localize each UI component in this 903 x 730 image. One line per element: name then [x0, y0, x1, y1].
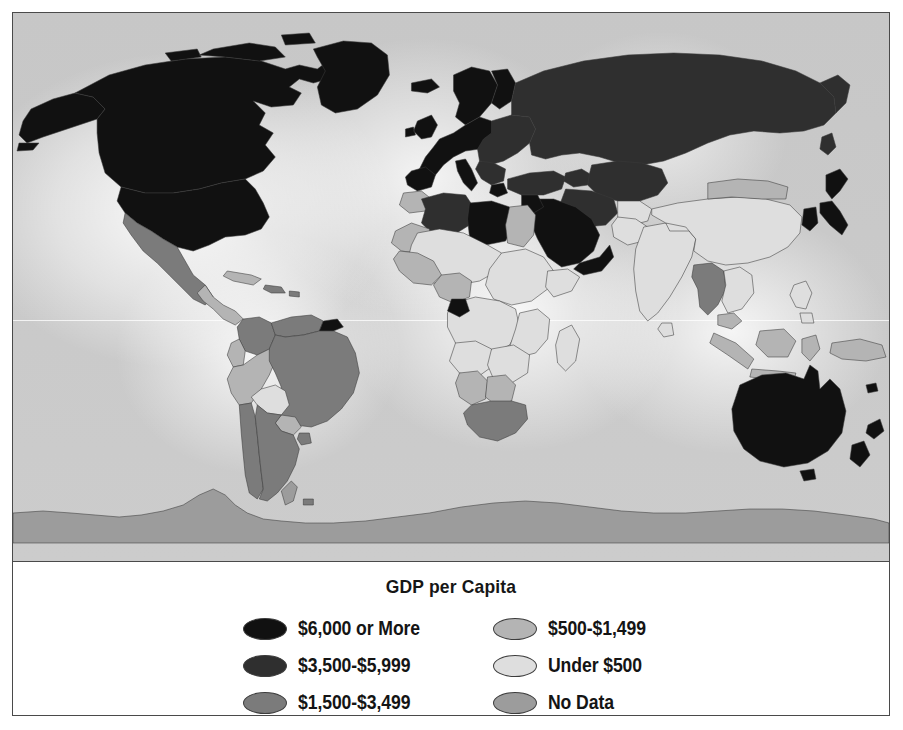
- legend-item-500-1499[interactable]: $500-$1,499: [493, 612, 659, 645]
- legend-item-label: $6,000 or More: [298, 617, 420, 640]
- legend-item-label: Under $500: [548, 654, 642, 677]
- region-papua-new-guinea[interactable]: [830, 339, 886, 361]
- region-antarctica[interactable]: [13, 489, 889, 543]
- region-egypt[interactable]: [506, 205, 536, 247]
- world-map-svg[interactable]: [13, 13, 889, 561]
- region-horn-of-africa[interactable]: [546, 269, 580, 297]
- region-russia[interactable]: [512, 53, 836, 165]
- region-malaysia[interactable]: [718, 313, 742, 329]
- region-nigeria[interactable]: [433, 273, 471, 303]
- region-united-kingdom[interactable]: [405, 115, 437, 139]
- region-mongolia[interactable]: [708, 179, 788, 199]
- legend-item-1500-3499[interactable]: $1,500-$3,499: [243, 686, 437, 719]
- legend-swatch-icon: [243, 692, 287, 714]
- region-iceland[interactable]: [411, 79, 439, 93]
- region-indochina[interactable]: [722, 267, 754, 313]
- region-italy[interactable]: [456, 159, 478, 191]
- region-australia[interactable]: [732, 365, 846, 467]
- region-korea[interactable]: [802, 207, 818, 231]
- region-sumatra[interactable]: [710, 333, 754, 369]
- legend-swatch-icon: [493, 655, 537, 677]
- gdp-per-capita-figure: GDP per Capita $6,000 or More $3,500-$5,…: [0, 0, 903, 730]
- region-caucasus[interactable]: [564, 169, 592, 187]
- region-greece[interactable]: [490, 183, 508, 197]
- legend-item-label: $3,500-$5,999: [298, 654, 410, 677]
- region-myanmar-thailand[interactable]: [692, 263, 726, 315]
- region-aleutians[interactable]: [17, 143, 39, 151]
- legend-item-label: $500-$1,499: [548, 617, 646, 640]
- legend-swatch-icon: [493, 692, 537, 714]
- region-central-america[interactable]: [197, 285, 243, 325]
- legend-item-6000-plus[interactable]: $6,000 or More: [243, 612, 437, 645]
- legend-title: GDP per Capita: [48, 576, 854, 598]
- legend-column-left: $6,000 or More $3,500-$5,999 $1,500-$3,4…: [243, 612, 437, 719]
- region-japan[interactable]: [820, 169, 848, 235]
- legend-swatch-icon: [243, 655, 287, 677]
- legend-swatch-icon: [493, 618, 537, 640]
- region-greenland[interactable]: [313, 41, 389, 113]
- region-namibia[interactable]: [456, 371, 488, 405]
- legend-columns: $6,000 or More $3,500-$5,999 $1,500-$3,4…: [13, 612, 889, 719]
- region-turkey[interactable]: [508, 171, 566, 195]
- region-sri-lanka[interactable]: [658, 323, 674, 337]
- region-new-zealand[interactable]: [850, 419, 884, 467]
- region-cuba[interactable]: [223, 271, 261, 285]
- legend-item-no-data[interactable]: No Data: [493, 686, 659, 719]
- region-falklands[interactable]: [303, 499, 313, 505]
- figure-frame: GDP per Capita $6,000 or More $3,500-$5,…: [12, 12, 890, 716]
- region-canada[interactable]: [75, 57, 343, 193]
- region-philippines[interactable]: [790, 281, 814, 323]
- legend-swatch-icon: [243, 618, 287, 640]
- region-alaska[interactable]: [19, 93, 105, 143]
- region-borneo[interactable]: [756, 329, 796, 357]
- legend-item-3500-5999[interactable]: $3,500-$5,999: [243, 649, 437, 682]
- legend-column-right: $500-$1,499 Under $500 No Data: [493, 612, 659, 719]
- region-hispaniola[interactable]: [263, 285, 285, 293]
- legend-item-under-500[interactable]: Under $500: [493, 649, 659, 682]
- region-madagascar[interactable]: [556, 325, 580, 371]
- region-sulawesi[interactable]: [802, 335, 820, 361]
- region-balkans[interactable]: [476, 161, 506, 185]
- region-south-africa[interactable]: [464, 401, 528, 441]
- legend-panel: GDP per Capita $6,000 or More $3,500-$5,…: [13, 561, 889, 715]
- region-tasmania[interactable]: [800, 469, 816, 481]
- region-sakhalin[interactable]: [820, 133, 836, 155]
- region-uruguay[interactable]: [297, 433, 311, 445]
- legend-item-label: No Data: [548, 691, 614, 714]
- region-india[interactable]: [634, 223, 696, 321]
- region-canada-arctic-islands[interactable]: [165, 33, 315, 61]
- region-new-caledonia[interactable]: [866, 383, 878, 393]
- region-puerto-rico[interactable]: [289, 291, 299, 297]
- legend-item-label: $1,500-$3,499: [298, 691, 410, 714]
- region-scandinavia[interactable]: [454, 67, 498, 125]
- world-map-panel[interactable]: [13, 13, 889, 561]
